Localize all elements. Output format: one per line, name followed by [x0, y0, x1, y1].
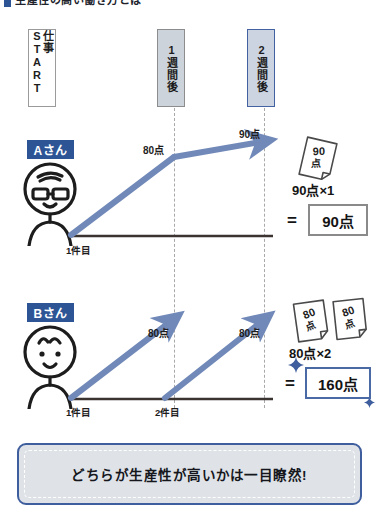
baseline-label-b-item1: 1件目: [66, 405, 91, 419]
cropped-page-title: 生産性の高い働き方とは: [0, 0, 379, 9]
timeline-header-week1: 1週間後: [157, 29, 185, 107]
score-sheet-icon-b-2: 80 点: [331, 296, 369, 341]
result-total-a-value: 90点: [322, 210, 354, 231]
equals-sign-a: =: [287, 211, 297, 231]
point-label-a-week2: 90点: [239, 126, 260, 141]
chart-area-person-b: [60, 283, 285, 411]
infographic-canvas: 生産性の高い働き方とは 仕事START 1週間後 2週間後 Aさん: [0, 0, 379, 525]
svg-text:点: 点: [311, 157, 321, 169]
baseline-label-b-item2: 2件目: [155, 405, 180, 419]
title-bullet-icon: [4, 0, 11, 7]
timeline-header-week1-label: 1週間後: [166, 44, 177, 93]
title-text: 生産性の高い働き方とは: [15, 0, 142, 7]
timeline-header-week2: 2週間後: [247, 29, 275, 107]
timeline-header-week2-label: 2週間後: [256, 44, 267, 93]
result-total-b: 160点: [305, 367, 371, 399]
result-total-b-value: 160点: [318, 373, 358, 394]
equals-sign-b: =: [285, 374, 295, 394]
baseline-label-a-item1: 1件目: [66, 243, 91, 257]
timeline-header-start: 仕事START: [28, 29, 56, 107]
conclusion-banner: どちらが生産性が高いかは一目瞭然!: [17, 443, 362, 505]
sheet-count-label-a: 90点×1: [292, 180, 334, 199]
timeline-header-start-label: 仕事START: [31, 30, 53, 106]
point-label-b-week1: 80点: [148, 325, 169, 340]
svg-text:90: 90: [313, 145, 325, 157]
conclusion-banner-text: どちらが生産性が高いかは一目瞭然!: [71, 464, 308, 484]
point-label-b-week2: 80点: [239, 325, 260, 340]
score-sheet-icon-b-1: 80 点: [291, 298, 331, 344]
point-label-a-week1: 80点: [143, 142, 164, 157]
sparkle-icon-b-1: [288, 357, 304, 373]
result-total-a: 90点: [308, 204, 368, 236]
score-sheet-icon-a-1: 90 点: [297, 135, 340, 184]
